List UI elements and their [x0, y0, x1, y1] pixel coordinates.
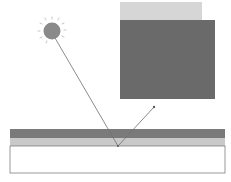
base-box [10, 146, 225, 173]
panel-dark-square [120, 20, 215, 99]
reflection-point [117, 145, 119, 147]
ray-end-point [153, 106, 155, 108]
sun-icon [38, 17, 66, 43]
surface-dark-band [10, 129, 225, 139]
reflection-diagram [0, 0, 231, 182]
panel-light-strip [120, 2, 202, 21]
